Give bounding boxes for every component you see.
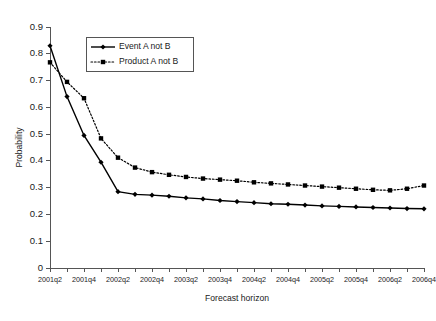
data-point-marker [387, 205, 392, 210]
x-tick-label: 2001q2 [38, 275, 62, 284]
x-tick-label: 2006q4 [412, 275, 436, 284]
y-tick-label: 0.4 [30, 154, 43, 165]
y-tick-label: 0.8 [30, 47, 43, 58]
data-point-marker [370, 205, 375, 210]
y-tick-label: 0.9 [30, 21, 43, 32]
data-point-marker [421, 206, 426, 211]
chart-container: 00.10.20.30.40.50.60.70.80.9 2001q22001q… [0, 0, 436, 321]
data-point-marker [48, 60, 52, 64]
data-point-marker [286, 182, 290, 186]
data-point-marker [201, 176, 205, 180]
data-point-marker [371, 188, 375, 192]
x-tick-label: 2006q2 [378, 275, 402, 284]
y-axis-ticks: 00.10.20.30.40.50.60.70.80.9 [30, 21, 50, 273]
x-axis-ticks: 2001q22001q42002q22002q42003q22003q42004… [38, 268, 436, 284]
chart-legend: Event A not BProduct A not B [86, 37, 193, 71]
data-point-marker [320, 184, 324, 188]
data-point-marker [99, 136, 103, 140]
x-tick-label: 2003q2 [174, 275, 198, 284]
data-point-marker [285, 202, 290, 207]
data-point-marker [47, 43, 52, 48]
data-point-marker [64, 94, 69, 99]
y-tick-label: 0.7 [30, 74, 43, 85]
legend-label: Event A not B [119, 41, 171, 51]
data-point-marker [150, 170, 154, 174]
x-tick-label: 2004q2 [242, 275, 266, 284]
data-point-marker [217, 198, 222, 203]
x-tick-label: 2003q4 [208, 275, 232, 284]
data-point-marker [252, 180, 256, 184]
x-tick-label: 2005q2 [310, 275, 334, 284]
y-tick-label: 0.1 [30, 235, 43, 246]
data-point-marker [302, 202, 307, 207]
series-2 [48, 60, 426, 192]
data-point-marker [116, 155, 120, 159]
data-point-marker [337, 185, 341, 189]
data-point-marker [353, 204, 358, 209]
data-point-marker [149, 193, 154, 198]
data-point-marker [319, 203, 324, 208]
data-point-marker [218, 177, 222, 181]
y-tick-label: 0.2 [30, 208, 43, 219]
y-tick-label: 0.6 [30, 101, 43, 112]
legend-label: Product A not B [119, 56, 179, 66]
data-point-marker [65, 80, 69, 84]
data-point-marker [405, 187, 409, 191]
data-point-marker [422, 183, 426, 187]
y-tick-label: 0.5 [30, 128, 43, 139]
x-tick-label: 2004q4 [276, 275, 300, 284]
data-point-marker [336, 204, 341, 209]
data-point-marker [404, 206, 409, 211]
data-point-marker [167, 173, 171, 177]
data-point-marker [388, 188, 392, 192]
data-point-marker [251, 200, 256, 205]
data-point-marker [354, 187, 358, 191]
data-point-marker [184, 175, 188, 179]
data-point-marker [234, 199, 239, 204]
data-point-marker [303, 183, 307, 187]
x-tick-label: 2005q4 [344, 275, 368, 284]
y-tick-label: 0 [38, 262, 43, 273]
x-tick-label: 2002q2 [106, 275, 130, 284]
x-axis-title: Forecast horizon [205, 293, 269, 303]
x-tick-label: 2001q4 [72, 275, 96, 284]
data-point-marker [82, 96, 86, 100]
line-chart: 00.10.20.30.40.50.60.70.80.9 2001q22001q… [0, 0, 436, 321]
data-point-marker [133, 165, 137, 169]
data-point-marker [166, 194, 171, 199]
x-tick-label: 2002q4 [140, 275, 164, 284]
data-point-marker [268, 201, 273, 206]
y-tick-label: 0.3 [30, 181, 43, 192]
data-point-marker [132, 192, 137, 197]
data-point-marker [183, 195, 188, 200]
data-point-marker [200, 196, 205, 201]
data-point-marker [269, 181, 273, 185]
y-axis-title: Probability [14, 127, 24, 168]
data-point-marker [235, 179, 239, 183]
